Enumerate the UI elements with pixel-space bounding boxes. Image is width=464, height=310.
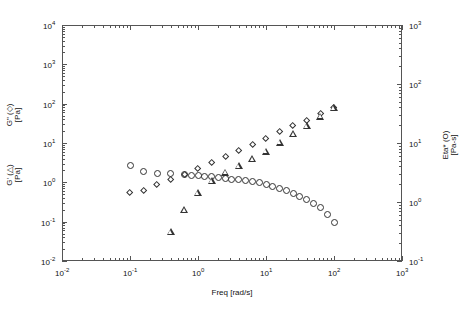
axis-tick xyxy=(82,25,83,28)
axis-tick xyxy=(246,258,247,261)
axis-tick xyxy=(391,25,392,28)
y-right-tick-label: 10-1 xyxy=(409,256,423,267)
axis-tick xyxy=(402,256,403,261)
axis-tick xyxy=(399,66,402,67)
axis-tick xyxy=(399,34,402,35)
axis-tick xyxy=(62,182,67,183)
axis-tick xyxy=(323,25,324,28)
axis-tick xyxy=(399,93,402,94)
axis-tick xyxy=(62,159,65,160)
axis-tick xyxy=(62,41,65,42)
axis-tick xyxy=(123,258,124,261)
axis-tick xyxy=(82,258,83,261)
axis-tick xyxy=(251,258,252,261)
axis-tick xyxy=(62,34,65,35)
axis-tick xyxy=(62,110,65,111)
axis-tick xyxy=(119,25,120,28)
axis-tick xyxy=(399,161,402,162)
axis-tick xyxy=(230,258,231,261)
axis-tick xyxy=(255,258,256,261)
x-axis-title: Freq [rad/s] xyxy=(62,288,402,298)
axis-tick xyxy=(62,70,65,71)
axis-tick xyxy=(399,146,402,147)
axis-tick xyxy=(62,76,65,77)
y-left-tick-label: 102 xyxy=(43,99,55,110)
axis-tick xyxy=(382,25,383,28)
axis-tick xyxy=(307,258,308,261)
axis-tick xyxy=(387,258,388,261)
axis-tick xyxy=(397,84,402,85)
axis-tick xyxy=(391,258,392,261)
axis-tick xyxy=(399,166,402,167)
axis-tick xyxy=(397,261,402,262)
axis-tick xyxy=(239,258,240,261)
axis-tick xyxy=(255,25,256,28)
axis-tick xyxy=(259,258,260,261)
axis-tick xyxy=(263,258,264,261)
axis-tick xyxy=(62,92,65,93)
y-left-tick-label: 103 xyxy=(43,59,55,70)
axis-tick xyxy=(246,25,247,28)
axis-tick xyxy=(399,233,402,234)
axis-tick xyxy=(183,258,184,261)
axis-tick xyxy=(399,90,402,91)
axis-tick xyxy=(399,125,402,126)
x-tick-label: 103 xyxy=(396,267,408,278)
axis-tick xyxy=(62,80,65,81)
axis-tick xyxy=(62,25,67,26)
axis-tick xyxy=(62,230,65,231)
y-axis-left-upper-units: [Pa] xyxy=(13,83,23,147)
axis-tick xyxy=(399,215,402,216)
axis-tick xyxy=(115,258,116,261)
axis-tick xyxy=(334,256,335,261)
axis-tick xyxy=(62,52,65,53)
axis-tick xyxy=(62,64,67,65)
y-axis-left-lower-units: [Pa] xyxy=(13,143,23,207)
axis-tick xyxy=(218,258,219,261)
axis-tick xyxy=(62,249,65,250)
axis-tick xyxy=(123,25,124,28)
axis-tick xyxy=(198,256,199,261)
axis-tick xyxy=(327,25,328,28)
y-left-tick-label: 101 xyxy=(43,138,55,149)
axis-tick xyxy=(110,258,111,261)
axis-tick xyxy=(127,258,128,261)
axis-tick xyxy=(251,25,252,28)
axis-tick xyxy=(183,25,184,28)
axis-tick xyxy=(399,149,402,150)
axis-tick xyxy=(127,25,128,28)
axis-tick xyxy=(62,68,65,69)
axis-tick xyxy=(266,25,267,30)
y-left-tick-label: 100 xyxy=(43,177,55,188)
x-tick-label: 10-1 xyxy=(123,267,137,278)
axis-tick xyxy=(397,25,402,26)
axis-tick xyxy=(314,258,315,261)
axis-tick xyxy=(62,147,65,148)
axis-tick xyxy=(62,107,65,108)
axis-tick xyxy=(198,25,199,30)
axis-tick xyxy=(387,25,388,28)
y-left-tick-label: 10-1 xyxy=(41,217,55,228)
axis-tick xyxy=(399,225,402,226)
axis-tick xyxy=(259,25,260,28)
axis-tick xyxy=(178,25,179,28)
axis-tick xyxy=(62,124,65,125)
axis-tick xyxy=(399,152,402,153)
axis-tick xyxy=(62,228,65,229)
axis-tick xyxy=(375,25,376,28)
x-tick-label: 102 xyxy=(328,267,340,278)
axis-tick xyxy=(62,46,65,47)
axis-tick xyxy=(62,119,65,120)
axis-tick xyxy=(62,155,65,156)
axis-tick xyxy=(62,186,65,187)
axis-tick xyxy=(399,107,402,108)
axis-tick xyxy=(187,25,188,28)
y-axis-left-upper-line2: [Pa] xyxy=(13,108,22,122)
axis-tick xyxy=(130,256,131,261)
axis-tick xyxy=(319,258,320,261)
axis-tick xyxy=(162,25,163,28)
axis-tick xyxy=(62,145,65,146)
y-axis-right-line2: [Pa-s] xyxy=(449,135,458,156)
axis-tick xyxy=(187,258,188,261)
axis-tick xyxy=(62,131,65,132)
